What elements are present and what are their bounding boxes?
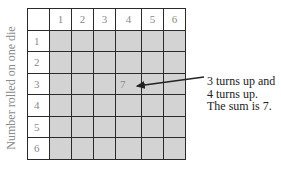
grid-cell [164, 30, 186, 52]
column-header: 5 [142, 9, 164, 31]
column-header: 2 [72, 9, 94, 31]
grid-cell [116, 52, 142, 74]
grid-cell [72, 138, 94, 160]
grid-cell [164, 52, 186, 74]
grid-cell [94, 95, 116, 117]
row-header: 5 [28, 116, 50, 138]
grid-cell [94, 30, 116, 52]
grid-cell [164, 73, 186, 95]
header-row: 1 2 3 4 5 6 [28, 9, 186, 31]
grid-cell [164, 116, 186, 138]
grid-row: 3 7 [28, 73, 186, 95]
grid-cell [164, 95, 186, 117]
grid-row: 2 [28, 52, 186, 74]
grid-cell [72, 52, 94, 74]
column-header: 4 [116, 9, 142, 31]
grid-cell [72, 116, 94, 138]
grid-cell [94, 73, 116, 95]
grid-cell [50, 73, 72, 95]
row-header: 4 [28, 95, 50, 117]
column-header: 1 [50, 9, 72, 31]
grid-cell [50, 95, 72, 117]
grid-cell [94, 52, 116, 74]
grid-cell [142, 73, 164, 95]
grid-cell [50, 116, 72, 138]
row-header: 6 [28, 138, 50, 160]
callout-line: The sum is 7. [207, 100, 275, 113]
highlighted-sum-cell: 7 [116, 73, 142, 95]
grid-cell [72, 30, 94, 52]
grid-cell [116, 138, 142, 160]
column-header: 6 [164, 9, 186, 31]
grid-cell [50, 52, 72, 74]
grid-cell [142, 116, 164, 138]
grid-cell [94, 138, 116, 160]
grid-cell [72, 73, 94, 95]
column-header: 3 [94, 9, 116, 31]
grid-row: 6 [28, 138, 186, 160]
dice-sum-grid: 1 2 3 4 5 6 1 2 3 7 4 5 6 [27, 8, 186, 160]
grid-cell [142, 52, 164, 74]
y-axis-label: Number rolled on one die [4, 18, 20, 158]
grid-row: 4 [28, 95, 186, 117]
grid-cell [142, 30, 164, 52]
row-header: 1 [28, 30, 50, 52]
callout-line: 3 turns up and [207, 75, 275, 88]
grid-cell [50, 138, 72, 160]
grid-cell [116, 30, 142, 52]
grid-cell [94, 116, 116, 138]
grid-cell [72, 95, 94, 117]
corner-cell [28, 9, 50, 31]
grid-row: 5 [28, 116, 186, 138]
grid-cell [50, 30, 72, 52]
grid-cell [142, 95, 164, 117]
grid-cell [116, 95, 142, 117]
grid-cell [142, 138, 164, 160]
row-header: 3 [28, 73, 50, 95]
grid-cell [116, 116, 142, 138]
grid-row: 1 [28, 30, 186, 52]
row-header: 2 [28, 52, 50, 74]
grid-cell [164, 138, 186, 160]
callout-text: 3 turns up and 4 turns up. The sum is 7. [207, 75, 275, 113]
